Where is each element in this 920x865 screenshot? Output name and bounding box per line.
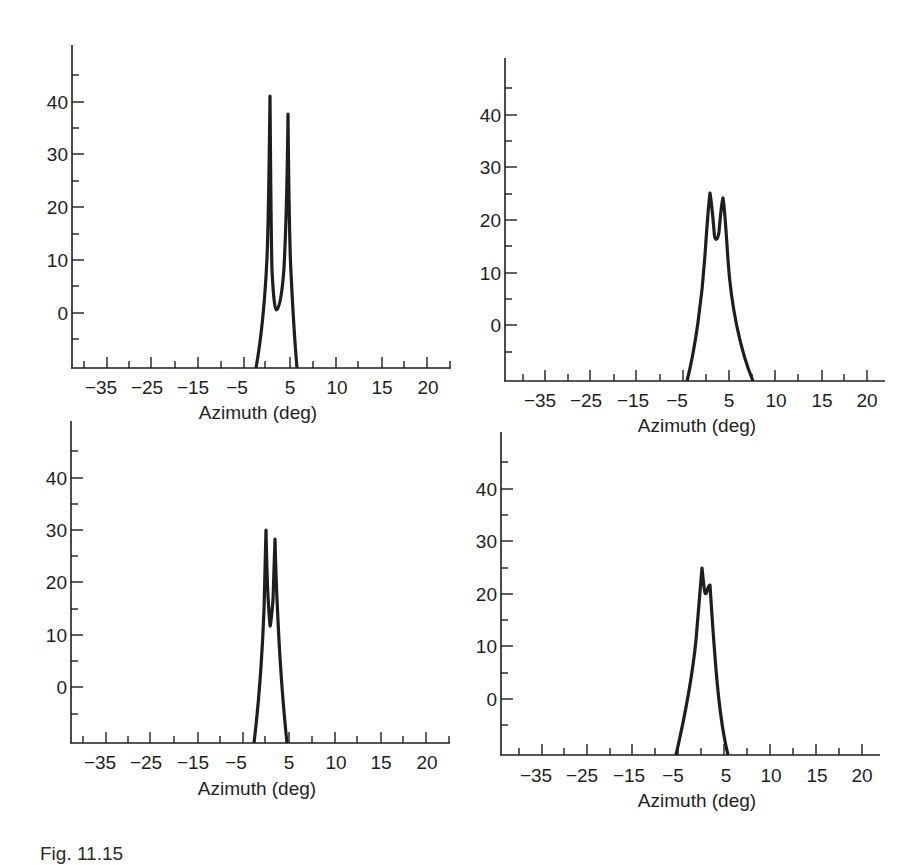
x-tick-label: −35 [84, 752, 116, 773]
y-tick-label: 30 [480, 157, 501, 178]
x-tick-label: −15 [177, 752, 209, 773]
y-tick-label: 30 [47, 144, 68, 165]
panel-top-right: 40 30 20 10 0 −35 −25 −15 [480, 58, 885, 436]
x-tick-label: 10 [765, 390, 786, 411]
y-tick-label: 40 [476, 479, 497, 500]
y-ticks [72, 75, 84, 339]
pattern-curve [687, 193, 753, 381]
y-tick-labels: 40 30 20 10 0 [47, 92, 68, 324]
y-tick-label: 40 [46, 468, 67, 489]
y-tick-labels: 40 30 20 10 0 [480, 105, 501, 336]
y-tick-label: 20 [476, 584, 497, 605]
y-tick-label: 40 [47, 92, 68, 113]
x-tick-label: −15 [613, 765, 645, 786]
x-tick-label: 5 [284, 752, 295, 773]
x-tick-label: 20 [416, 752, 437, 773]
x-tick-label: −15 [617, 390, 649, 411]
x-tick-labels: −35 −25 −15 −5 5 10 15 20 [84, 752, 438, 773]
panel-bottom-right: 40 30 20 10 0 −35 −25 −15 [476, 432, 880, 811]
x-tick-label: −25 [566, 765, 598, 786]
pattern-curve [256, 96, 297, 368]
figure-caption: Fig. 11.15 [40, 843, 123, 865]
y-tick-labels: 40 30 20 10 0 [46, 468, 67, 698]
x-tick-label: −5 [662, 765, 684, 786]
x-tick-label: 10 [760, 765, 781, 786]
x-ticks [519, 744, 862, 755]
y-tick-label: 10 [480, 263, 501, 284]
y-tick-label: 20 [47, 197, 68, 218]
y-ticks [501, 462, 513, 725]
y-ticks [71, 451, 83, 714]
x-tick-label: 15 [370, 752, 391, 773]
x-tick-labels: −35 −25 −15 −5 5 10 15 20 [520, 765, 873, 786]
x-tick-label: 5 [724, 390, 735, 411]
panel-bottom-left: 40 30 20 10 0 −35 −25 [46, 421, 450, 799]
x-tick-label: −35 [524, 390, 556, 411]
y-tick-label: 30 [476, 531, 497, 552]
y-tick-label: 20 [480, 210, 501, 231]
y-tick-label: 30 [46, 520, 67, 541]
x-tick-label: −5 [225, 752, 247, 773]
x-tick-label: −35 [520, 765, 552, 786]
pattern-curve [254, 530, 287, 743]
y-tick-label: 10 [47, 250, 68, 271]
x-tick-label: 10 [326, 377, 347, 398]
x-tick-label: 20 [851, 765, 872, 786]
y-tick-label: 0 [490, 315, 501, 336]
x-tick-label: −15 [177, 377, 209, 398]
x-tick-label: −5 [226, 377, 248, 398]
panel-top-left: 40 30 20 10 0 −35 −2 [47, 45, 451, 423]
y-tick-label: 10 [476, 636, 497, 657]
y-tick-labels: 40 30 20 10 0 [476, 479, 497, 710]
x-tick-label: 15 [371, 377, 392, 398]
x-ticks [523, 370, 867, 381]
pattern-curve [676, 568, 728, 755]
x-tick-labels: −35 −25 −15 −5 5 10 15 20 [85, 377, 439, 398]
y-tick-label: 10 [46, 625, 67, 646]
x-tick-label: −35 [85, 377, 117, 398]
y-ticks [505, 88, 517, 352]
y-tick-label: 20 [46, 572, 67, 593]
x-tick-label: 20 [856, 390, 877, 411]
x-tick-label: −25 [570, 390, 602, 411]
x-tick-label: 5 [721, 765, 732, 786]
x-tick-label: 15 [806, 765, 827, 786]
y-tick-label: 0 [486, 689, 497, 710]
x-axis-title: Azimuth (deg) [638, 415, 756, 436]
x-axis-title: Azimuth (deg) [198, 778, 316, 799]
y-tick-label: 40 [480, 105, 501, 126]
x-tick-label: −25 [131, 377, 163, 398]
x-tick-label: 10 [325, 752, 346, 773]
y-tick-label: 0 [57, 303, 68, 324]
x-ticks [83, 732, 449, 743]
x-tick-label: 20 [417, 377, 438, 398]
x-tick-label: −5 [666, 390, 688, 411]
x-tick-labels: −35 −25 −15 −5 5 10 15 20 [524, 390, 878, 411]
x-axis-title: Azimuth (deg) [199, 402, 317, 423]
x-axis-title: Azimuth (deg) [638, 790, 756, 811]
x-tick-label: 5 [285, 377, 296, 398]
y-tick-label: 0 [56, 677, 67, 698]
x-tick-label: 15 [811, 390, 832, 411]
x-tick-label: −25 [130, 752, 162, 773]
x-ticks [84, 357, 450, 368]
